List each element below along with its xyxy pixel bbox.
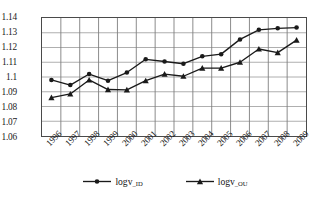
y-tick-label: 1.14 (2, 12, 17, 22)
legend-label: logv_ID (115, 176, 142, 187)
y-tick-label: 1.08 (2, 102, 17, 112)
y-tick-label: 1.09 (2, 87, 17, 97)
y-tick-label: 1.1 (6, 72, 17, 82)
legend-item-logv-id[interactable]: logv_ID (82, 176, 142, 187)
data-series-layer (42, 18, 306, 136)
y-tick-label: 1.13 (2, 27, 17, 37)
line-chart: 1.061.071.081.091.11.111.121.131.14 1996… (0, 0, 330, 202)
plot-area (41, 17, 307, 137)
y-tick-label: 1.12 (2, 42, 17, 52)
y-tick-label: 1.07 (2, 117, 17, 127)
chart-legend: logv_IDlogv_OU (0, 176, 330, 187)
triangle-marker-icon (185, 176, 215, 187)
circle-marker-icon (82, 176, 112, 187)
y-tick-label: 1.06 (2, 132, 17, 142)
legend-item-logv-ou[interactable]: logv_OU (185, 176, 248, 187)
y-tick-label: 1.11 (2, 57, 17, 67)
legend-label: logv_OU (218, 176, 248, 187)
